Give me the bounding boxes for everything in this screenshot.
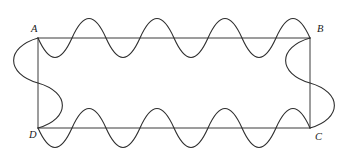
wavy-rectangle-diagram: A B C D: [0, 0, 348, 162]
corner-label-A: A: [30, 23, 38, 34]
corner-label-D: D: [28, 129, 37, 140]
corner-label-B: B: [317, 23, 324, 34]
figure-canvas: A B C D: [0, 0, 348, 162]
rectangle-edges: [38, 38, 310, 128]
corner-label-C: C: [315, 131, 323, 142]
